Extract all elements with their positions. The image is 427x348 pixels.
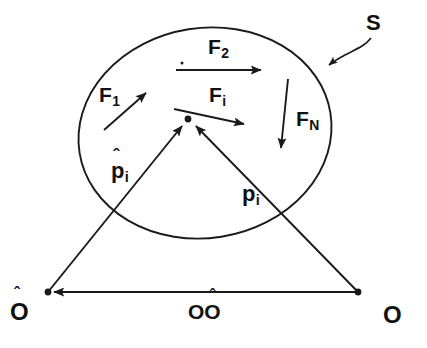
baseline-vector-label: OˆO [188,301,221,322]
force-f1-label-sub: 1 [112,93,120,109]
force-fi-label: Fi [209,84,226,105]
force-fn-label-base: F [296,107,309,130]
force-fn-label: FN [296,108,319,129]
origin-o-hat-point [45,289,52,296]
force-fi-label-sub: i [222,93,226,109]
force-fn-arrow [281,79,288,148]
vector-p-i-label-sub: i [256,192,260,208]
vector-p-hat-i-label: pi [111,160,129,182]
origin-o-point [355,289,362,296]
surface-label-leader-line [329,38,371,65]
vector-p-hat-i-label-sub: i [125,169,129,185]
mechanics-diagram: S F1 F2 Fi FN ˆ pi pi ˆ O O OˆO [0,0,427,348]
force-fi-label-base: F [209,83,222,106]
force-f1-label-base: F [99,83,112,106]
baseline-label-second-wrap: ˆO [204,301,220,322]
baseline-label-first: O [188,300,204,323]
force-f1-label: F1 [99,84,120,105]
origin-o-label: O [383,303,402,327]
force-f2-tail-dot [181,62,184,65]
vector-p-hat-i-label-base: p [111,158,124,183]
vector-p-i-label: pi [242,183,260,205]
surface-label: S [366,12,381,34]
force-f2-label-sub: 2 [221,45,229,61]
force-fn-label-sub: N [309,117,319,133]
force-f2-label: F2 [208,36,229,57]
vector-p-i-arrow [196,126,358,292]
force-f2-label-base: F [208,35,221,58]
origin-o-hat-label: O [10,300,29,324]
particle-point [185,116,192,123]
force-fi-arrow [174,109,244,124]
vector-p-i-label-base: p [242,181,255,206]
baseline-label-second-accent: ˆ [210,288,215,304]
